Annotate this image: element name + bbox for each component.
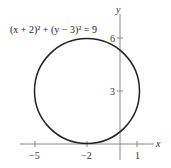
x-tick-label-1: 1 [135, 150, 140, 161]
x-tick-label-neg5: −5 [29, 150, 40, 161]
x-axis-label: x [155, 138, 161, 149]
y-tick-label-3: 3 [110, 86, 115, 97]
equation-label: (x + 2)² + (y − 3)² = 9 [10, 24, 97, 36]
y-tick-label-6: 6 [110, 33, 115, 44]
circle-graph: x y −5 −2 1 6 3 (x + 2)² + (y − 3)² = 9 [0, 0, 171, 168]
x-tick-label-neg2: −2 [81, 150, 92, 161]
y-axis-label: y [115, 4, 121, 15]
circle-curve [35, 39, 140, 144]
